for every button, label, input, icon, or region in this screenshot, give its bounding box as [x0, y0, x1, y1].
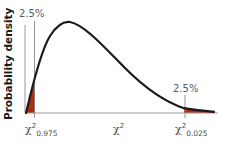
y-axis-label: Probability density — [2, 8, 14, 120]
density-curve — [26, 22, 214, 113]
subscript: 0.975 — [36, 129, 57, 138]
subscript: 0.025 — [186, 129, 207, 138]
x-tick-upper-critical: χ20.025 — [175, 123, 208, 138]
lower-tail-percent: 2.5% — [19, 9, 44, 19]
superscript: 2 — [120, 122, 124, 130]
chi-symbol: χ — [175, 123, 182, 136]
chi-symbol: χ — [25, 123, 32, 136]
x-axis-label: χ2 — [113, 123, 124, 135]
upper-tail-percent: 2.5% — [173, 84, 198, 94]
x-tick-lower-critical: χ20.975 — [25, 123, 58, 138]
chi-symbol: χ — [113, 123, 120, 136]
